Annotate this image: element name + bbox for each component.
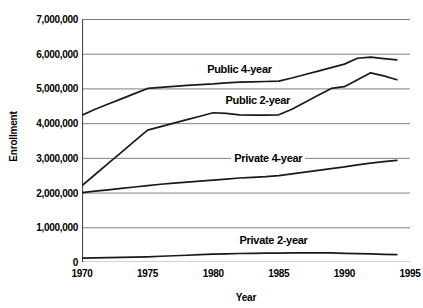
- y-axis-tick-label: 4,000,000: [6, 118, 78, 129]
- gridlines: [82, 20, 410, 263]
- y-axis-tick-label: 6,000,000: [6, 48, 78, 59]
- series-line: [82, 253, 397, 258]
- series-label: Public 2-year: [223, 94, 294, 106]
- series-label: Private 4-year: [231, 152, 305, 164]
- series-line: [82, 160, 397, 192]
- x-axis-tick-label: 1975: [124, 268, 172, 279]
- enrollment-line-chart: Enrollment 01,000,0002,000,0003,000,0004…: [0, 0, 423, 308]
- x-axis-title: Year: [82, 292, 410, 303]
- series-line: [82, 73, 397, 186]
- x-axis-tick-label: 1995: [386, 268, 423, 279]
- series-label: Private 2-year: [237, 234, 311, 246]
- x-axis-tick-label: 1985: [255, 268, 303, 279]
- y-axis-tick-label: 7,000,000: [6, 14, 78, 25]
- x-axis-tick-label: 1970: [58, 268, 106, 279]
- y-axis-tick-label: 3,000,000: [6, 152, 78, 163]
- plot-area: [82, 19, 410, 262]
- x-axis-tick-label: 1990: [320, 268, 368, 279]
- y-axis-tick-label: 5,000,000: [6, 83, 78, 94]
- y-axis-tick-label: 2,000,000: [6, 187, 78, 198]
- x-axis-tick-label: 1980: [189, 268, 237, 279]
- y-axis-tick-label: 0: [6, 257, 78, 268]
- y-axis-tick-labels: 01,000,0002,000,0003,000,0004,000,0005,0…: [0, 0, 78, 308]
- series-label: Public 4-year: [204, 63, 275, 75]
- chart-canvas: [82, 19, 410, 262]
- y-axis-tick-label: 1,000,000: [6, 222, 78, 233]
